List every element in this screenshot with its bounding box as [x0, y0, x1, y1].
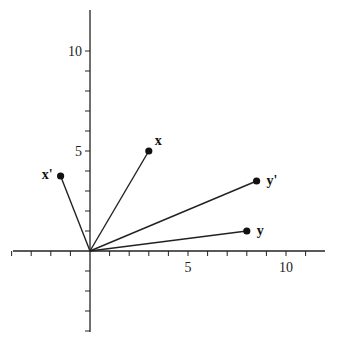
y-tick-label: 10 [68, 44, 82, 59]
vector-label: y' [267, 173, 278, 188]
y-tick-label: 5 [75, 144, 82, 159]
vector-plot: 510510 xx'y'y [0, 0, 338, 343]
vector-y: y [90, 223, 264, 251]
vector-endpoint [145, 147, 152, 154]
x-tick-label: 10 [279, 260, 293, 275]
vector-line [90, 151, 149, 251]
ticks [12, 51, 306, 331]
vector-label: y [257, 223, 264, 238]
vector-x: x [90, 133, 162, 251]
vector-endpoint [253, 177, 260, 184]
x-tick-label: 5 [185, 260, 192, 275]
axes [13, 10, 325, 332]
vector-line [61, 176, 90, 251]
vector-label: x [155, 133, 162, 148]
tick-labels: 510510 [68, 44, 293, 275]
vector-endpoint [57, 172, 64, 179]
vector-label: x' [42, 167, 53, 182]
vector-x-prime: x' [42, 167, 90, 251]
vector-endpoint [243, 227, 250, 234]
